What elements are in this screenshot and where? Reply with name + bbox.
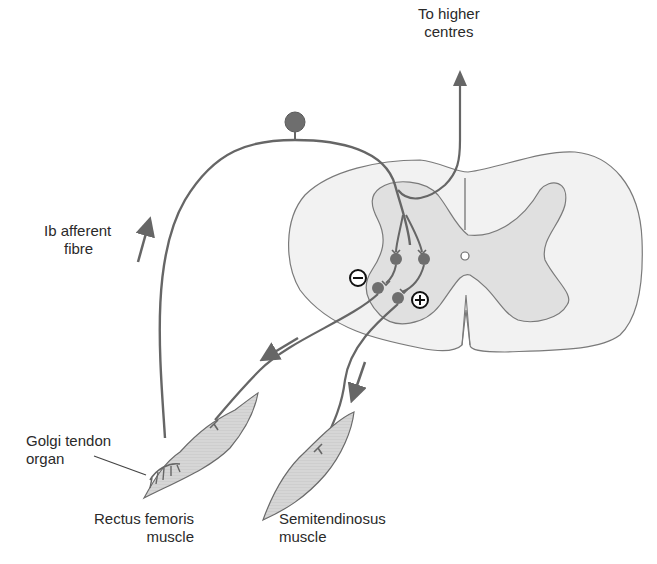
central-canal (461, 252, 469, 260)
interneuron-inhibitory (390, 253, 402, 265)
golgi-tendon-reflex-diagram: To higher centres Ib afferent fibre Golg… (0, 0, 657, 564)
higher-centres-line2: centres (418, 23, 480, 41)
semitendinosus-label: Semitendinosus muscle (279, 510, 386, 546)
inhibitory-sign (350, 270, 366, 286)
afferent-direction-arrow (138, 226, 148, 262)
rectus-line1: Rectus femoris (70, 510, 194, 528)
rectus-femoris-label: Rectus femoris muscle (70, 510, 194, 546)
dorsal-root-ganglion-cell (285, 112, 305, 132)
afferent-line1: Ib afferent (44, 222, 111, 240)
golgi-line1: Golgi tendon (26, 432, 111, 450)
golgi-tendon-organ-label: Golgi tendon organ (26, 432, 111, 468)
higher-centres-line1: To higher (418, 5, 480, 23)
motor-neuron-semitendinosus (392, 292, 404, 304)
rectus-femoris-muscle (144, 393, 258, 498)
semitendinosus-muscle (263, 412, 354, 520)
motor-neuron-rectus (372, 282, 384, 294)
semitendinosus-line2: muscle (279, 528, 386, 546)
higher-centres-label: To higher centres (418, 5, 480, 41)
afferent-line2: fibre (44, 240, 111, 258)
rectus-direction-arrow (268, 338, 298, 356)
golgi-line2: organ (26, 450, 111, 468)
diagram-svg (0, 0, 657, 564)
afferent-fibre-label: Ib afferent fibre (44, 222, 111, 258)
excitatory-sign (412, 292, 428, 308)
higher-centres-arrowhead (453, 70, 467, 86)
rectus-line2: muscle (70, 528, 194, 546)
semitendinosus-direction-arrow (354, 362, 365, 394)
interneuron-excitatory (418, 253, 430, 265)
motor-axon-rectus (215, 294, 378, 420)
semitendinosus-line1: Semitendinosus (279, 510, 386, 528)
